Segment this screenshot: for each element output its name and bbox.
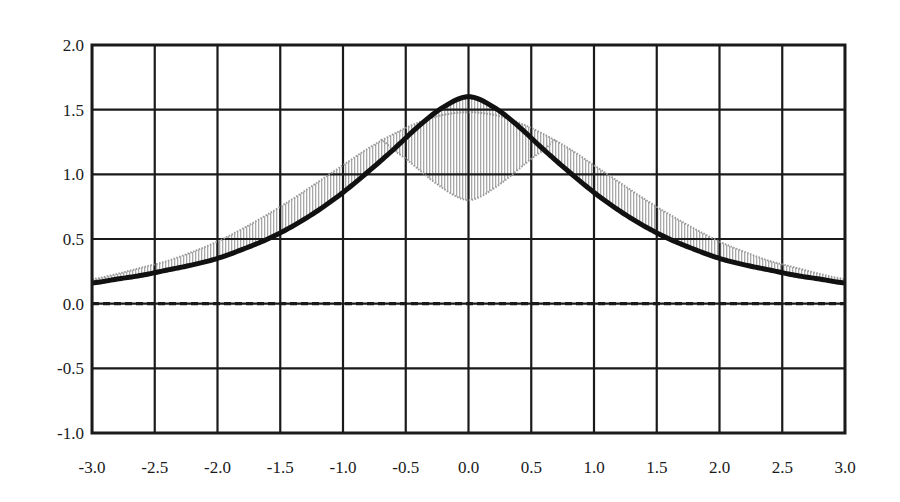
gridlines <box>92 45 845 433</box>
x-tick-label: -1.0 <box>330 459 357 476</box>
x-tick-label: 2.5 <box>772 459 793 476</box>
chart-figure: -1.0-0.50.00.51.01.52.0 -3.0-2.5-2.0-1.5… <box>0 0 900 502</box>
y-tick-label: 2.0 <box>26 37 84 54</box>
x-tick-label: 3.0 <box>834 459 855 476</box>
y-tick-label: -0.5 <box>26 360 84 377</box>
y-tick-label: 0.0 <box>26 295 84 312</box>
y-tick-label: 1.0 <box>26 166 84 183</box>
y-tick-label: -1.0 <box>26 425 84 442</box>
y-tick-label: 1.5 <box>26 101 84 118</box>
x-tick-label: -1.5 <box>267 459 294 476</box>
chart-canvas <box>0 0 900 502</box>
x-tick-label: -2.5 <box>141 459 168 476</box>
x-tick-label: -2.0 <box>204 459 231 476</box>
x-tick-label: 0.5 <box>521 459 542 476</box>
x-tick-label: 0.0 <box>458 459 479 476</box>
x-tick-label: -3.0 <box>79 459 106 476</box>
x-tick-label: 1.5 <box>646 459 667 476</box>
x-tick-label: -0.5 <box>392 459 419 476</box>
x-tick-label: 2.0 <box>709 459 730 476</box>
x-tick-label: 1.0 <box>583 459 604 476</box>
y-tick-label: 0.5 <box>26 231 84 248</box>
